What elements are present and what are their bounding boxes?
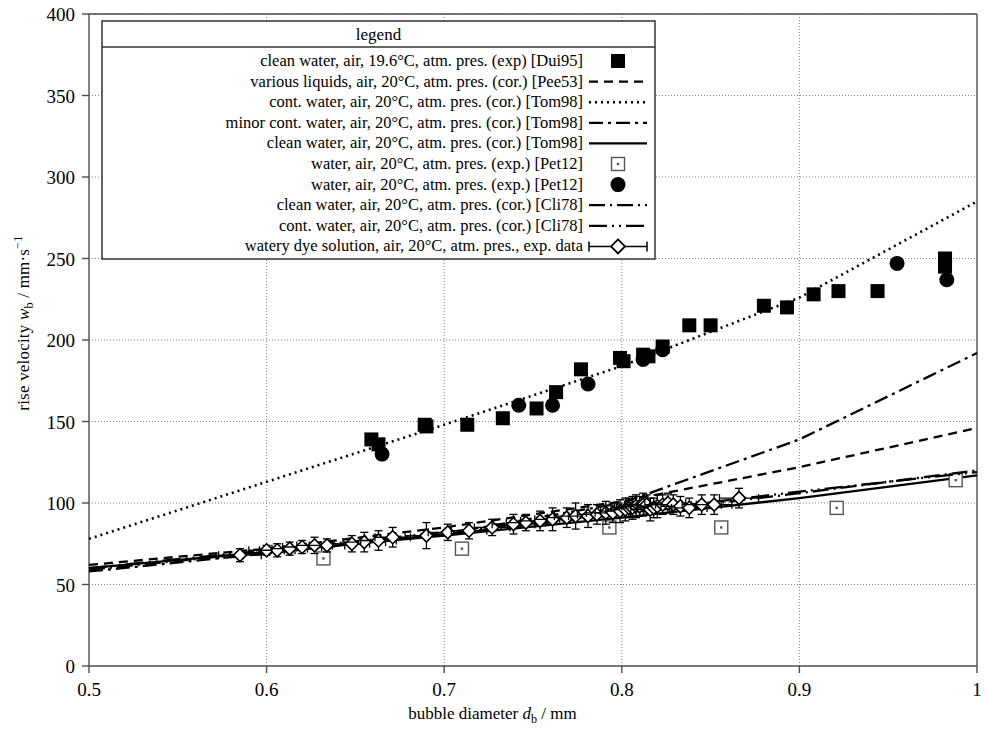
marker-filled-square — [496, 411, 510, 425]
legend-entry-label: clean water, air, 20°C, atm. pres. (cor.… — [277, 195, 583, 214]
legend-entry-label: minor cont. water, air, 20°C, atm. pres.… — [226, 113, 583, 132]
marker-filled-square — [831, 284, 845, 298]
y-axis-label-text: rise velocity wb / mm·s−1 — [14, 235, 33, 410]
marker-open-square-center — [720, 526, 722, 528]
marker-filled-circle — [939, 272, 954, 287]
legend-entry-label: cont. water, air, 20°C, atm. pres. (cor.… — [279, 216, 583, 235]
marker-open-square-center — [954, 479, 956, 481]
legend-entry-label: various liquids, air, 20°C, atm. pres. (… — [250, 72, 583, 91]
marker-open-square-center — [608, 526, 610, 528]
marker-filled-circle — [581, 377, 596, 392]
x-tick-label: 0.8 — [610, 679, 634, 700]
legend-sample-open-square-center — [617, 163, 619, 165]
marker-filled-circle — [636, 352, 651, 367]
legend-entry-label: water, air, 20°C, atm. pres. (exp.) [Pet… — [311, 175, 583, 194]
x-axis-label-text: bubble diameter db / mm — [408, 704, 577, 723]
marker-filled-square — [574, 362, 588, 376]
x-tick-label: 0.6 — [255, 679, 279, 700]
y-tick-label: 100 — [47, 493, 76, 514]
series-9 — [219, 488, 759, 561]
series-3 — [89, 353, 977, 571]
errorbar-point — [428, 524, 467, 540]
marker-filled-square — [530, 401, 544, 415]
legend-entry-label: watery dye solution, air, 20°C, atm. pre… — [245, 236, 584, 255]
chart-canvas: 0501001502002503003504000.50.60.70.80.91… — [0, 0, 985, 732]
legend-entry-label: clean water, air, 19.6°C, atm. pres. (ex… — [260, 51, 583, 70]
marker-filled-square — [757, 299, 771, 313]
legend-entry-label: water, air, 20°C, atm. pres. (exp.) [Pet… — [311, 154, 583, 173]
marker-open-diamond — [463, 524, 476, 537]
marker-filled-circle — [655, 342, 670, 357]
legend-entry: water, air, 20°C, atm. pres. (exp.) [Pet… — [311, 175, 625, 194]
marker-open-diamond — [283, 542, 296, 555]
legend-entry: water, air, 20°C, atm. pres. (exp.) [Pet… — [311, 154, 624, 173]
marker-filled-square — [780, 300, 794, 314]
x-tick-label: 1 — [972, 679, 982, 700]
legend-entry-label: clean water, air, 20°C, atm. pres. (cor.… — [267, 133, 583, 152]
marker-filled-square — [807, 287, 821, 301]
marker-filled-square — [549, 385, 563, 399]
y-tick-label: 200 — [47, 330, 76, 351]
y-tick-label: 150 — [47, 412, 76, 433]
legend-entry: clean water, air, 19.6°C, atm. pres. (ex… — [260, 51, 625, 70]
marker-filled-square — [938, 260, 952, 274]
marker-filled-circle — [545, 398, 560, 413]
y-tick-label: 400 — [47, 4, 76, 25]
y-tick-label: 50 — [56, 575, 75, 596]
y-axis-label: rise velocity wb / mm·s−1 — [11, 203, 37, 443]
series-line — [89, 353, 977, 571]
legend-sample-filled-square — [611, 54, 625, 68]
legend-sample-filled-circle — [611, 177, 626, 192]
marker-filled-circle — [375, 447, 390, 462]
x-tick-label: 0.5 — [77, 679, 101, 700]
legend-entry-label: cont. water, air, 20°C, atm. pres. (cor.… — [269, 92, 583, 111]
series-5 — [317, 474, 962, 565]
x-tick-label: 0.9 — [788, 679, 812, 700]
marker-open-square-center — [461, 547, 463, 549]
y-tick-label: 350 — [47, 86, 76, 107]
marker-filled-circle — [511, 398, 526, 413]
marker-open-square-center — [322, 557, 324, 559]
marker-filled-square — [617, 354, 631, 368]
marker-open-diamond — [296, 541, 309, 554]
legend: legendclean water, air, 19.6°C, atm. pre… — [102, 21, 655, 259]
legend-title: legend — [356, 25, 402, 44]
errorbar-point — [451, 523, 487, 539]
errorbar-point — [405, 523, 448, 549]
marker-open-diamond — [441, 526, 454, 539]
marker-open-square-center — [835, 507, 837, 509]
x-axis-label: bubble diameter db / mm — [0, 704, 985, 727]
x-tick-label: 0.7 — [432, 679, 456, 700]
y-tick-label: 250 — [47, 249, 76, 270]
y-tick-label: 0 — [66, 656, 76, 677]
marker-filled-square — [682, 318, 696, 332]
marker-filled-square — [871, 284, 885, 298]
y-tick-label: 300 — [47, 167, 76, 188]
marker-filled-circle — [890, 256, 905, 271]
marker-open-diamond — [271, 544, 284, 557]
bubble-rise-velocity-chart: 0501001502002503003504000.50.60.70.80.91… — [0, 0, 985, 732]
